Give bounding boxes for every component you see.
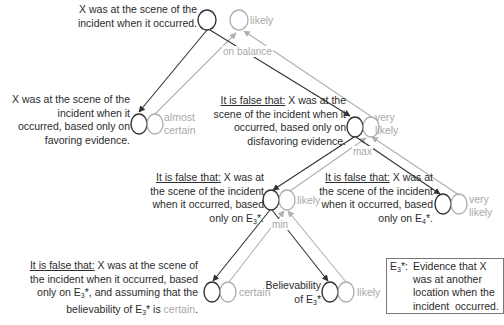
text-line: was at another <box>413 273 499 286</box>
text-line: the scene of the incident <box>150 185 264 199</box>
legend-note-box: E3*: Evidence that X was at another loca… <box>386 258 504 314</box>
text-fragment: X was at the scene of <box>95 259 198 271</box>
text-line: incident occurred. <box>413 300 499 313</box>
text-fragment: . <box>195 303 198 315</box>
node-believability-value: likely <box>357 286 380 299</box>
text-line: only on E3*. <box>150 212 264 229</box>
node-believability-circles <box>322 282 354 302</box>
text-line: favoring evidence. <box>12 134 130 148</box>
text-line: Believability <box>266 279 321 293</box>
operator-max: max <box>352 146 373 157</box>
value-line: almost <box>164 111 196 124</box>
text-fragment: of E <box>294 293 313 305</box>
argument-diagram: X was at the scene of the incident when … <box>0 0 504 325</box>
text-line: X was at the scene of the <box>78 3 197 17</box>
text-line: the scene of the incident <box>319 185 433 199</box>
value-line: very <box>469 193 492 206</box>
text-line: when it occurred, based <box>319 198 433 212</box>
value-line: likely <box>469 206 492 219</box>
text-line: location when the <box>413 286 499 299</box>
edge-root-favoring <box>139 30 207 112</box>
text-line: It is false that: X was at the <box>213 94 346 108</box>
value-line: likely <box>375 124 398 137</box>
node-believability-text: Believability of E3* <box>266 279 321 309</box>
text-fragment: only on E <box>37 286 81 298</box>
node-e3-circles <box>263 190 295 210</box>
value-line: certain <box>164 124 196 137</box>
node-root-value: likely <box>250 14 273 27</box>
text-fragment: *. <box>426 212 433 224</box>
node-disfavoring-text: It is false that: X was at the scene of … <box>213 94 346 148</box>
text-fragment: X was at <box>390 171 433 183</box>
text-fragment: believability of E <box>66 303 142 315</box>
text-line: when it occurred, based <box>150 198 264 212</box>
node-favoring-circles <box>131 114 163 134</box>
negation-prefix: It is false that: <box>325 171 390 183</box>
text-line: It is false that: X was at <box>150 171 264 185</box>
text-line: incident when it occurred. <box>78 17 197 31</box>
text-line: believability of E3* is certain. <box>30 303 198 320</box>
text-line: incident when it <box>12 107 130 121</box>
text-fragment: *. <box>257 212 264 224</box>
text-line: only on E4*. <box>319 212 433 229</box>
node-root-circles <box>198 10 248 30</box>
text-line: Evidence that X <box>413 260 499 273</box>
text-fragment: X was at the <box>285 94 346 106</box>
node-favoring-text: X was at the scene of the incident when … <box>12 93 130 147</box>
text-fragment: only on E <box>378 212 422 224</box>
text-fragment: *, and assuming that the <box>85 286 198 298</box>
negation-prefix: It is false that: <box>156 171 221 183</box>
value-line: very <box>375 111 398 124</box>
node-root-text: X was at the scene of the incident when … <box>78 3 197 30</box>
node-e3-certain-text: It is false that: X was at the scene of … <box>30 259 198 319</box>
text-line: scene of the incident when it <box>213 108 346 122</box>
text-line: X was at the scene of the <box>12 93 130 107</box>
node-e3-certain-circles <box>204 282 236 302</box>
operator-min: min <box>271 219 289 230</box>
text-line: occurred, based only on <box>213 121 346 135</box>
text-fragment: only on E <box>209 212 253 224</box>
node-favoring-value: almost certain <box>164 111 196 137</box>
text-line: occurred, based only on <box>12 120 130 134</box>
node-disfavoring-value: very likely <box>375 111 398 137</box>
operator-on-balance: on balance <box>222 46 273 57</box>
text-fragment: E <box>390 260 397 272</box>
assumed-value: certain <box>164 303 196 315</box>
text-line: only on E3*, and assuming that the <box>30 286 198 303</box>
text-line: disfavoring evidence. <box>213 135 346 149</box>
negation-prefix: It is false that: <box>221 94 286 106</box>
node-e3-value: likely <box>297 194 320 207</box>
note-term: E3*: <box>390 260 408 276</box>
text-fragment: X was at <box>221 171 264 183</box>
node-e3-text: It is false that: X was at the scene of … <box>150 171 264 228</box>
node-e4-circles <box>435 194 467 214</box>
text-fragment: *: <box>401 260 408 272</box>
node-e4-value: very likely <box>469 193 492 219</box>
text-line: It is false that: X was at <box>319 171 433 185</box>
text-line: the incident when it occurred, based <box>30 273 198 287</box>
node-e4-text: It is false that: X was at the scene of … <box>319 171 433 228</box>
text-fragment: * <box>317 293 321 305</box>
note-definition: Evidence that X was at another location … <box>413 260 499 313</box>
text-fragment: * is <box>146 303 164 315</box>
text-line: It is false that: X was at the scene of <box>30 259 198 273</box>
negation-prefix: It is false that: <box>30 259 95 271</box>
text-line: of E3* <box>266 293 321 310</box>
